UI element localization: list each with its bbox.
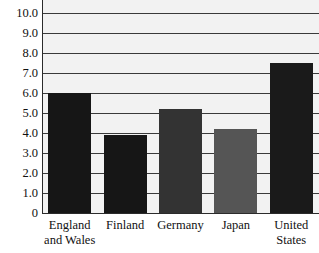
x-axis-tick-label: Germany [153, 218, 208, 233]
bar-chart: 01.02.03.04.05.06.07.08.09.010.0 England… [0, 0, 319, 253]
x-axis-tick-label: UnitedStates [264, 218, 319, 248]
x-axis-tick-label-line: United [264, 218, 319, 233]
x-axis-tick-label-line: and Wales [42, 233, 97, 248]
bars-layer [0, 0, 319, 214]
bar [159, 109, 202, 213]
bar [214, 129, 257, 213]
bar [48, 93, 91, 213]
x-axis-tick-label-line: States [264, 233, 319, 248]
x-axis-tick-label: Englandand Wales [42, 218, 97, 248]
x-axis-tick-label-line: Germany [153, 218, 208, 233]
x-axis-tick-label-line: Japan [208, 218, 263, 233]
x-axis-tick-label-line: England [42, 218, 97, 233]
x-axis-tick-label-line: Finland [97, 218, 152, 233]
bar [104, 135, 147, 213]
x-axis-tick-label: Finland [97, 218, 152, 233]
x-axis-tick-labels: Englandand WalesFinlandGermanyJapanUnite… [42, 216, 319, 253]
x-axis-tick-label: Japan [208, 218, 263, 233]
bar [270, 63, 313, 213]
